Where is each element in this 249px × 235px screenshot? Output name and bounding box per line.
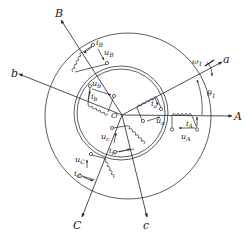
label-uc: uc: [101, 132, 110, 142]
label-iB: iB: [96, 38, 104, 48]
label-C: C: [73, 219, 82, 232]
label-ib: ib: [91, 92, 98, 102]
winding-c: [110, 126, 144, 154]
axis-b: [19, 74, 122, 115]
label-ua: ua: [156, 116, 165, 126]
winding-A: [170, 114, 198, 132]
label-theta: θ1: [207, 89, 216, 99]
label-ic: ic: [109, 146, 116, 156]
diagram-canvas: A a B b C c O ω1 θ1 iA uA ia ua iB uB ub…: [0, 0, 249, 235]
label-uC: uC: [75, 155, 85, 165]
winding-C: [78, 152, 114, 181]
label-B: B: [54, 7, 63, 20]
label-omega: ω1: [192, 57, 202, 67]
axis-c: [122, 115, 147, 217]
stator-outer-circle: [45, 33, 211, 199]
axis-A: [122, 115, 232, 116]
label-iA: iA: [186, 119, 194, 129]
label-iC: iC: [74, 169, 82, 179]
label-origin: O: [111, 111, 118, 120]
label-b: b: [11, 67, 18, 80]
winding-diagram: A a B b C c O ω1 θ1 iA uA ia ua iB uB ub…: [0, 0, 249, 235]
label-a: a: [223, 53, 230, 66]
label-ia: ia: [151, 99, 158, 109]
label-A: A: [233, 110, 242, 123]
theta-arc: [197, 80, 202, 115]
label-uB: uB: [104, 48, 114, 58]
label-c: c: [143, 219, 149, 232]
axis-C: [82, 115, 122, 217]
label-uA: uA: [181, 132, 191, 142]
